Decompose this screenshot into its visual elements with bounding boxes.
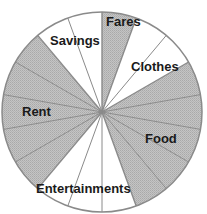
slice-label-savings: Savings <box>50 33 100 48</box>
slice-label-clothes: Clothes <box>131 59 179 74</box>
slice-label-food: Food <box>145 131 177 146</box>
slice-label-fares: Fares <box>106 14 141 29</box>
pie-chart: Fares Savings Clothes Rent Food Entertai… <box>0 0 207 214</box>
slice-label-rent: Rent <box>22 104 52 119</box>
slice-label-entertainments: Entertainments <box>36 181 131 196</box>
